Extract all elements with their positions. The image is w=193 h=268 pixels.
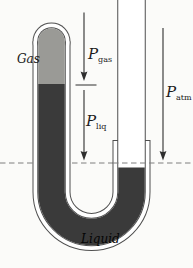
pgas-label-sub: gas [98, 55, 112, 64]
liquid-label: Liquid [80, 232, 120, 246]
patm-label-sub: atm [176, 93, 192, 102]
pliq-label-sub: liq [96, 122, 106, 131]
manometer-svg: Gas Pgas Pliq Patm Liquid [0, 0, 193, 268]
gas-label: Gas [17, 52, 40, 66]
manometer-diagram: Gas Pgas Pliq Patm Liquid [0, 0, 193, 268]
